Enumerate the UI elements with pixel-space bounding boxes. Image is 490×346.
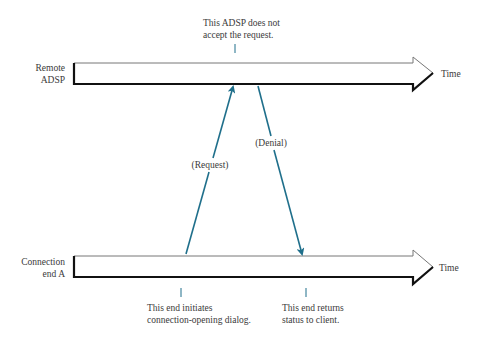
top-annotation-line2: accept the request.: [203, 29, 280, 41]
request-message-label: (Request): [184, 159, 236, 171]
diagram-canvas: [0, 0, 490, 346]
bottom-right-annotation: This end returns status to client.: [282, 302, 344, 326]
timeline-label-remote-adsp: Remote ADSP: [20, 62, 65, 86]
time-axis-label-top: Time: [441, 68, 461, 80]
bottom-left-annotation: This end initiates connection-opening di…: [147, 302, 251, 326]
denial-message-label: (Denial): [245, 137, 297, 149]
top-annotation-line1: This ADSP does not: [203, 17, 280, 29]
denial-message-arrow: [258, 86, 302, 254]
connection-end-a-label-line1: Connection: [10, 256, 65, 268]
timeline-arrow-remote-adsp: [74, 57, 433, 90]
bottom-right-annotation-line1: This end returns: [282, 302, 344, 314]
timeline-arrow-connection-end-a: [74, 250, 433, 284]
time-axis-label-bottom: Time: [439, 262, 459, 274]
bottom-left-annotation-line1: This end initiates: [147, 302, 251, 314]
connection-end-a-label-line2: end A: [10, 268, 65, 280]
bottom-right-annotation-line2: status to client.: [282, 314, 344, 326]
bottom-left-annotation-line2: connection-opening dialog.: [147, 314, 251, 326]
top-annotation: This ADSP does not accept the request.: [203, 17, 280, 41]
remote-adsp-label-line2: ADSP: [20, 74, 65, 86]
remote-adsp-label-line1: Remote: [20, 62, 65, 74]
timeline-label-connection-end-a: Connection end A: [10, 256, 65, 280]
